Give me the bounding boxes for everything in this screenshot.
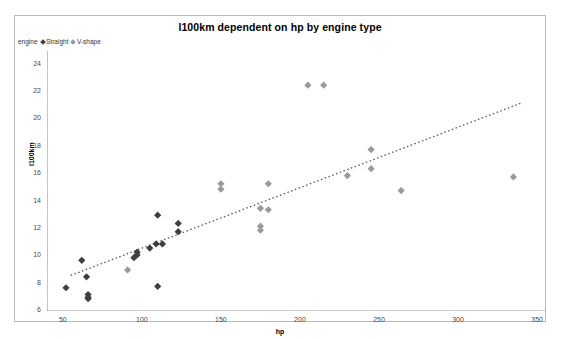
y-axis-tick-label: 20 [25,114,41,121]
y-axis-tick-label: 14 [25,197,41,204]
data-point[interactable] [367,146,374,153]
data-point[interactable] [175,228,182,235]
x-axis-label: hp [15,328,545,335]
chart-container: l100km dependent on hp by engine type en… [14,15,546,322]
plot-area [47,51,545,311]
chart-legend: engine Straight V-shape [18,38,101,45]
y-axis-tick-label: 12 [25,224,41,231]
diamond-marker-icon [71,39,77,45]
x-axis-tick-label: 300 [446,316,470,323]
chart-title: l100km dependent on hp by engine type [15,21,545,33]
data-point[interactable] [154,212,161,219]
x-axis-tick-label: 250 [367,316,391,323]
y-axis-tick-label: 10 [25,251,41,258]
data-point[interactable] [320,82,327,89]
data-point[interactable] [265,180,272,187]
data-point[interactable] [146,244,153,251]
legend-item-vshape[interactable]: V-shape [71,38,100,45]
y-axis-tick-label: 8 [25,279,41,286]
series-v-shape [124,82,517,274]
y-axis-tick-label: 16 [25,169,41,176]
data-point[interactable] [175,220,182,227]
data-point[interactable] [62,284,69,291]
data-point[interactable] [265,206,272,213]
data-point[interactable] [83,273,90,280]
legend-label-vshape: V-shape [77,38,101,45]
data-point[interactable] [510,173,517,180]
y-axis-tick-label: 22 [25,87,41,94]
data-point[interactable] [367,165,374,172]
y-axis-tick-label: 18 [25,142,41,149]
legend-title: engine [18,38,38,45]
data-point[interactable] [217,186,224,193]
x-axis-tick-label: 150 [209,316,233,323]
data-point[interactable] [78,257,85,264]
x-axis-tick-label: 200 [288,316,312,323]
y-axis-tick-label: 6 [25,306,41,313]
data-point[interactable] [257,227,264,234]
diamond-marker-icon [40,39,46,45]
data-point[interactable] [124,266,131,273]
y-axis-tick-label: 24 [25,60,41,67]
data-point[interactable] [304,82,311,89]
trend-line [71,103,522,275]
data-point[interactable] [398,187,405,194]
legend-item-straight[interactable]: Straight [41,38,69,45]
series-straight [62,212,181,303]
x-axis-tick-label: 100 [130,316,154,323]
data-point[interactable] [159,240,166,247]
x-axis-tick-label: 50 [51,316,75,323]
data-point[interactable] [154,283,161,290]
legend-label-straight: Straight [46,38,68,45]
data-point[interactable] [257,205,264,212]
x-axis-tick-label: 350 [525,316,549,323]
data-point[interactable] [152,240,159,247]
scatter-plot-svg [47,51,545,311]
data-point[interactable] [344,172,351,179]
